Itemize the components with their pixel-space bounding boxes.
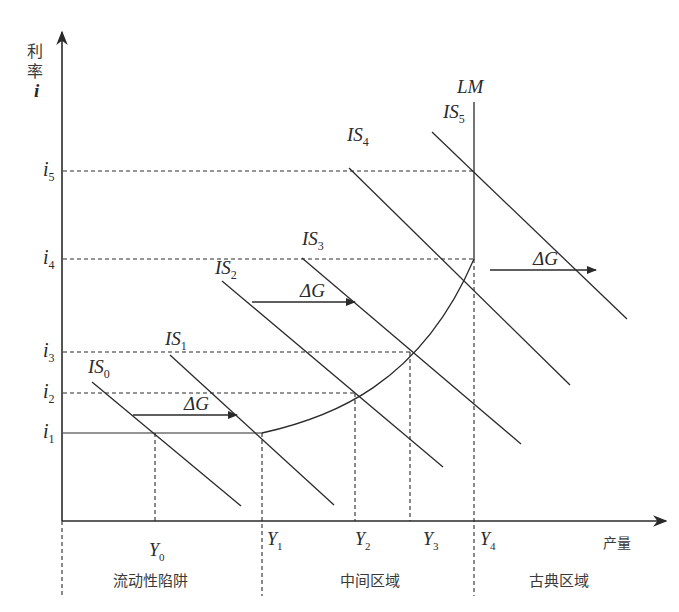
is-curve-labels: IS0 IS1 IS2 IS3 IS4 IS5 xyxy=(87,101,465,381)
shift-arrows: ΔG ΔG ΔG xyxy=(133,248,596,415)
label-is1: IS1 xyxy=(164,328,187,353)
label-y1: Y1 xyxy=(267,529,283,552)
is-lm-diagram: 利 率 i 产量 i1 i2 i3 i4 i5 Y0 Y1 Y2 Y3 Y4 xyxy=(0,0,679,612)
label-is2: IS2 xyxy=(214,257,237,282)
region-intermediate: 中间区域 xyxy=(340,572,400,590)
axes xyxy=(62,32,666,521)
label-i1: i1 xyxy=(43,420,55,446)
is4-curve xyxy=(349,168,570,385)
region-labels: 流动性陷阱 中间区域 古典区域 xyxy=(113,572,589,590)
region-classical: 古典区域 xyxy=(529,572,589,590)
x-axis-label: 产量 xyxy=(603,535,631,551)
is3-curve xyxy=(302,258,521,444)
label-delta-g-2: ΔG xyxy=(299,280,325,301)
is-curves xyxy=(92,132,627,506)
label-i3: i3 xyxy=(43,339,55,365)
label-is3: IS3 xyxy=(301,228,324,253)
y-axis-label-char-1: 利 xyxy=(27,42,43,61)
region-liquidity-trap: 流动性陷阱 xyxy=(113,572,188,590)
label-i2: i2 xyxy=(43,380,55,406)
label-i5: i5 xyxy=(43,158,55,184)
lm-curve xyxy=(262,102,474,433)
y-axis-label-char-2: 率 xyxy=(27,62,43,81)
label-is5: IS5 xyxy=(442,101,465,126)
y-axis-label: 利 率 i xyxy=(27,42,43,101)
label-y3: Y3 xyxy=(423,529,439,552)
label-delta-g-1: ΔG xyxy=(183,393,209,414)
label-y4: Y4 xyxy=(480,529,496,552)
label-lm: LM xyxy=(456,76,485,97)
output-level-labels: Y0 Y1 Y2 Y3 Y4 xyxy=(149,529,496,563)
label-is4: IS4 xyxy=(346,124,369,149)
label-y0: Y0 xyxy=(149,540,165,563)
is1-curve xyxy=(170,355,334,505)
lm-curve-group: LM xyxy=(262,76,485,433)
label-y2: Y2 xyxy=(355,529,371,552)
is0-curve xyxy=(92,382,241,506)
label-is0: IS0 xyxy=(87,356,110,381)
label-i4: i4 xyxy=(43,246,55,272)
y-axis-variable: i xyxy=(34,80,40,101)
is5-curve xyxy=(432,132,627,319)
interest-level-labels: i1 i2 i3 i4 i5 xyxy=(43,158,55,446)
label-delta-g-3: ΔG xyxy=(532,248,558,269)
